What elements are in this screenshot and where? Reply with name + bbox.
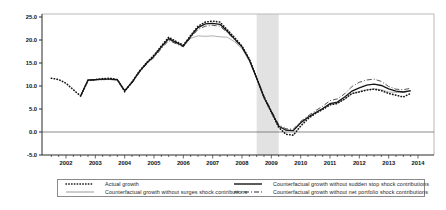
y-axis-tick-label: 15.0 — [26, 60, 37, 66]
series-solid-line — [81, 23, 411, 130]
series-dotted-line — [51, 21, 410, 135]
gray-line-icon — [60, 190, 100, 194]
y-axis-tick-label: 5.0 — [29, 106, 37, 112]
legend-item-sudden-stop-counterfactual: Counterfactual growth without sudden sto… — [228, 180, 429, 188]
x-axis-tick-label: 2012 — [353, 160, 366, 166]
y-axis-tick-label: 20.0 — [26, 37, 37, 43]
series-solid-thin-line — [81, 36, 411, 131]
dotted-line-icon — [60, 182, 100, 186]
y-axis-tick-label: 25.0 — [26, 14, 37, 20]
x-axis-tick-label: 2013 — [382, 160, 396, 166]
growth-decomposition-figure: 25.020.015.010.05.00.0-5.020022003200420… — [0, 0, 446, 210]
y-axis-tick-label: 10.0 — [26, 83, 37, 89]
x-axis-tick-label: 2009 — [265, 160, 279, 166]
y-axis-tick-label: 0.0 — [29, 129, 37, 135]
solid-line-icon — [228, 182, 268, 186]
x-axis-tick-label: 2011 — [324, 160, 337, 166]
legend-item-net-portfolio-counterfactual: Counterfactual growth without net portfo… — [228, 188, 429, 196]
x-axis-tick-label: 2004 — [118, 160, 132, 166]
series-dashdot-line — [81, 25, 411, 129]
x-axis-tick-label: 2005 — [148, 160, 162, 166]
x-axis-tick-label: 2002 — [60, 160, 73, 166]
x-axis-tick-label: 2014 — [412, 160, 426, 166]
x-axis-tick-label: 2008 — [236, 160, 250, 166]
x-axis-tick-label: 2003 — [89, 160, 103, 166]
legend-item-surges-counterfactual: Counterfactual growth without surges sho… — [60, 188, 228, 196]
legend-label: Actual growth — [105, 181, 139, 187]
chart-legend: Actual growth Counterfactual growth with… — [57, 179, 425, 197]
x-axis-tick-label: 2010 — [294, 160, 307, 166]
legend-label: Counterfactual growth without sudden sto… — [273, 181, 429, 187]
x-axis-tick-label: 2006 — [177, 160, 191, 166]
x-axis-tick-label: 2007 — [206, 160, 219, 166]
legend-item-actual-growth: Actual growth — [60, 180, 228, 188]
legend-label: Counterfactual growth without net portfo… — [273, 189, 428, 195]
y-axis-tick-label: -5.0 — [27, 152, 37, 158]
dash-dot-line-icon — [228, 190, 268, 194]
legend-label: Counterfactual growth without surges sho… — [105, 189, 247, 195]
